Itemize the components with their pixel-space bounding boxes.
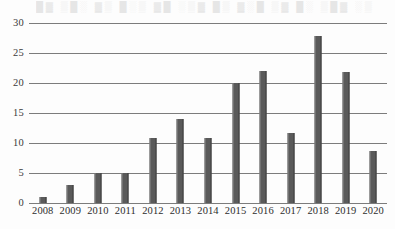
bar-2009[interactable] xyxy=(67,185,74,203)
y-axis-tick-label: 30 xyxy=(0,18,24,29)
bar-2018[interactable] xyxy=(315,36,322,203)
bar-slot xyxy=(194,23,222,203)
x-axis-tick-label: 2011 xyxy=(115,205,136,218)
x-axis-baseline xyxy=(29,203,387,204)
bar-slot xyxy=(249,23,277,203)
x-axis-tick-label: 2009 xyxy=(60,205,81,218)
bar-2011[interactable] xyxy=(122,173,129,203)
bar-slot xyxy=(332,23,360,203)
bar-2014[interactable] xyxy=(204,138,211,203)
x-axis-tick-label: 2008 xyxy=(32,205,53,218)
bar-2013[interactable] xyxy=(177,119,184,203)
y-axis-tick-label: 25 xyxy=(0,48,24,59)
plot-area xyxy=(29,23,387,203)
bar-2008[interactable] xyxy=(39,197,46,203)
y-axis-tick-label: 5 xyxy=(0,168,24,179)
bar-slot xyxy=(29,23,57,203)
bar-slot xyxy=(57,23,85,203)
y-axis-tick-label: 10 xyxy=(0,138,24,149)
y-axis-tick-label: 0 xyxy=(0,198,24,209)
x-axis-tick-label: 2016 xyxy=(252,205,273,218)
bar-2020[interactable] xyxy=(370,151,377,203)
bar-2017[interactable] xyxy=(287,133,294,203)
bar-slot xyxy=(112,23,140,203)
bar-slot xyxy=(139,23,167,203)
bar-2012[interactable] xyxy=(149,138,156,203)
y-axis-tick-label: 20 xyxy=(0,78,24,89)
x-axis-tick-label: 2013 xyxy=(170,205,191,218)
bar-2010[interactable] xyxy=(94,173,101,203)
bar-2019[interactable] xyxy=(342,72,349,203)
y-axis-tick-label: 15 xyxy=(0,108,24,119)
x-axis-tick-label: 2019 xyxy=(335,205,356,218)
bar-slot xyxy=(167,23,195,203)
bar-slot xyxy=(359,23,387,203)
scan-bleed-through-artifact: █▓ ▒█░ ▓▒ █░▒ ▓█ ░▒▓ █▒ ▓░█ ▒▓ █░ ▒█▓ ░▒ xyxy=(36,1,389,15)
x-axis-tick-label: 2020 xyxy=(363,205,384,218)
x-axis-tick-label: 2015 xyxy=(225,205,246,218)
x-axis-tick-label: 2014 xyxy=(197,205,218,218)
x-axis-tick-label: 2012 xyxy=(142,205,163,218)
x-axis-tick-labels: 2008200920102011201220132014201520162017… xyxy=(29,205,387,223)
x-axis-tick-label: 2010 xyxy=(87,205,108,218)
bars-layer xyxy=(29,23,387,203)
bar-chart: █▓ ▒█░ ▓▒ █░▒ ▓█ ░▒▓ █▒ ▓░█ ▒▓ █░ ▒█▓ ░▒… xyxy=(0,0,395,229)
x-axis-tick-label: 2018 xyxy=(307,205,328,218)
bar-2016[interactable] xyxy=(260,71,267,203)
bar-slot xyxy=(277,23,305,203)
bar-slot xyxy=(304,23,332,203)
bar-2015[interactable] xyxy=(232,83,239,203)
x-axis-tick-label: 2017 xyxy=(280,205,301,218)
y-axis-tick-labels: 051015202530 xyxy=(0,23,24,203)
bar-slot xyxy=(84,23,112,203)
bar-slot xyxy=(222,23,250,203)
